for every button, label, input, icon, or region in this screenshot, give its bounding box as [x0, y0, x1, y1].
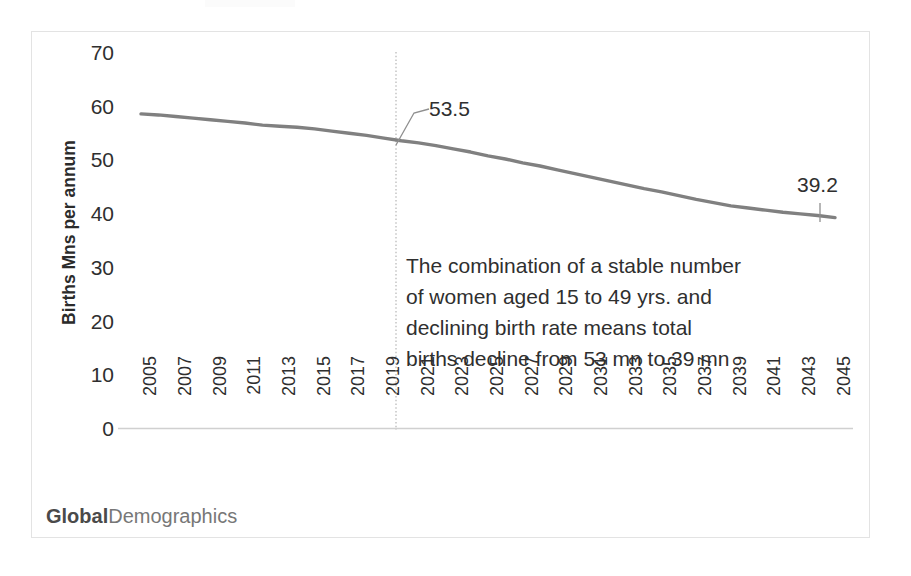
brand-global: Global — [46, 505, 108, 527]
data-label-start: 53.5 — [429, 98, 470, 119]
data-label-end: 39.2 — [797, 174, 838, 195]
annotation-line-4: births decline from 53 mn to 39 mn — [406, 343, 826, 374]
annotation-line-1: The combination of a stable number — [406, 250, 826, 281]
brand-label: GlobalDemographics — [46, 505, 237, 527]
births-series-line — [141, 114, 835, 218]
annotation-line-2: of women aged 15 to 49 yrs. and — [406, 281, 826, 312]
brand-demographics: Demographics — [108, 505, 237, 527]
chart-container: 70 60 50 40 30 20 10 0 Births Mns per an… — [0, 0, 911, 576]
annotation-line-3: declining birth rate means total — [406, 312, 826, 343]
annotation-text-block: The combination of a stable number of wo… — [406, 250, 826, 374]
